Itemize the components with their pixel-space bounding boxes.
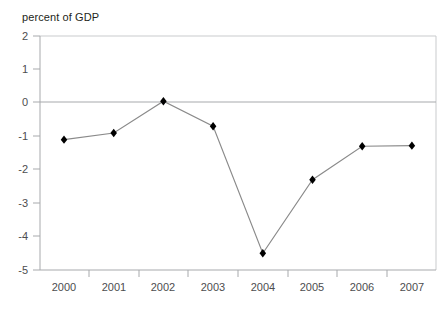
- line-chart-plot: 2 1 0 -1 -2 -3 -4 -5 2000 2001 2002 2003…: [0, 0, 446, 310]
- y-tick-label: 1: [22, 63, 28, 75]
- data-point-marker: [61, 135, 68, 143]
- x-tick-label: 2006: [350, 281, 374, 293]
- y-tick-label: -2: [18, 163, 28, 175]
- plot-frame: [40, 36, 436, 270]
- y-tick-label: 2: [22, 30, 28, 42]
- data-point-marker: [359, 142, 366, 150]
- chart-figure: percent of GDP 2 1 0 -1 -2 -3: [0, 0, 446, 310]
- y-tick-label: -3: [18, 197, 28, 209]
- x-tick-label: 2001: [102, 281, 126, 293]
- y-axis-tick-labels: 2 1 0 -1 -2 -3 -4 -5: [18, 30, 28, 276]
- data-point-marker: [110, 129, 117, 137]
- x-tick-label: 2000: [52, 281, 76, 293]
- data-point-markers: [61, 97, 415, 258]
- x-axis-ticks: [89, 270, 387, 277]
- x-tick-label: 2007: [400, 281, 424, 293]
- y-axis-ticks: [33, 36, 40, 270]
- data-point-marker: [409, 141, 416, 149]
- y-tick-label: -5: [18, 264, 28, 276]
- x-tick-label: 2003: [201, 281, 225, 293]
- x-tick-label: 2002: [151, 281, 175, 293]
- data-series-line: [64, 101, 412, 253]
- y-tick-label: -1: [18, 130, 28, 142]
- data-point-marker: [210, 122, 217, 130]
- y-tick-label: -4: [18, 230, 28, 242]
- x-tick-label: 2005: [300, 281, 324, 293]
- y-tick-label: 0: [22, 96, 28, 108]
- x-tick-label: 2004: [251, 281, 275, 293]
- x-axis-tick-labels: 2000 2001 2002 2003 2004 2005 2006 2007: [52, 281, 424, 293]
- data-point-marker: [160, 97, 167, 105]
